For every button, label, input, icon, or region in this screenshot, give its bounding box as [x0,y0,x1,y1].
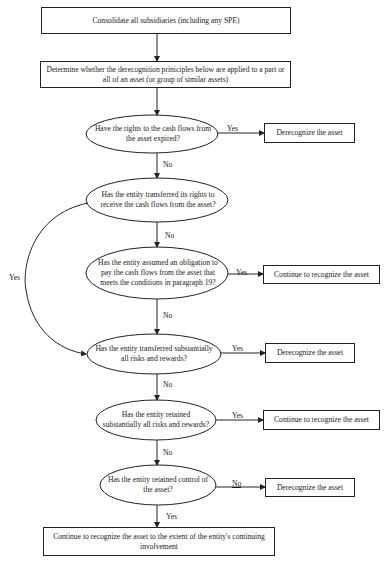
label-q2-yes: Yes [9,273,20,282]
label-q5-no: No [163,448,172,457]
result-r3-box: Continue to recognize the asset [263,265,380,284]
result-r1-box: Derecognize the asset [264,123,355,143]
result-r3-text: Continue to recognize the asset [274,270,369,280]
result-r6-text: Derecognize the asset [277,483,343,493]
decision-q2-text: Has the entity transferred its rights to… [98,190,218,210]
label-q6-no: No [232,479,241,488]
decision-q4-text: Has the entity transferred substantially… [92,344,216,364]
determine-box: Determine whether the derecognition prin… [40,61,291,88]
result-r5-text: Continue to recognize the asset [274,415,369,425]
label-q1-yes: Yes [227,124,238,133]
label-q3-no: No [163,311,172,320]
result-r6-box: Derecognize the asset [265,478,355,497]
decision-q3-text: Has the entity assumed an obligation to … [98,258,218,288]
result-r4-text: Derecognize the asset [277,348,343,358]
decision-q2: Has the entity transferred its rights to… [92,183,224,217]
label-q6-yes: Yes [166,512,177,521]
label-q1-no: No [163,160,172,169]
consolidate-text: Consolidate all subsidiaries (including … [92,16,239,26]
result-r5-box: Continue to recognize the asset [263,410,380,430]
label-q3-yes: Yes [236,268,247,277]
determine-text: Determine whether the derecognition prin… [45,65,286,85]
edge-q2-q4-curve [25,203,88,354]
consolidate-box: Consolidate all subsidiaries (including … [41,7,291,34]
decision-q6-text: Has the entity retained control of the a… [106,475,210,495]
decision-q1: Have the rights to the cash flows from t… [88,118,218,150]
label-q4-no: No [163,380,172,389]
final-text: Continue to recognize the asset to the e… [48,532,270,552]
decision-q5: Has the entity retained substantially al… [96,404,216,436]
decision-q5-text: Has the entity retained substantially al… [102,410,210,430]
decision-q1-text: Have the rights to the cash flows from t… [94,124,212,144]
result-r4-box: Derecognize the asset [265,343,355,363]
decision-q3: Has the entity assumed an obligation to … [92,252,224,294]
label-q4-yes: Yes [232,344,243,353]
final-box: Continue to recognize the asset to the e… [43,527,275,556]
label-q2-no: No [165,231,174,240]
result-r1-text: Derecognize the asset [276,128,342,138]
label-q5-yes: Yes [232,411,243,420]
decision-q4: Has the entity transferred substantially… [86,338,222,370]
decision-q6: Has the entity retained control of the a… [100,469,216,501]
